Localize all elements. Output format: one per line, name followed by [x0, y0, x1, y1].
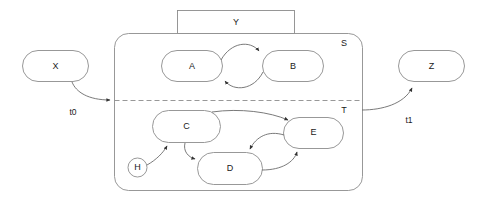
transition-t0[interactable]: t0: [69, 82, 110, 117]
state-machine-diagram: Y S T X Z A B C D E: [0, 0, 482, 204]
node-E[interactable]: E: [284, 118, 344, 149]
node-Z-label: Z: [429, 61, 435, 71]
node-B[interactable]: B: [263, 51, 324, 82]
node-Y-label: Y: [233, 17, 239, 27]
node-X[interactable]: X: [23, 51, 89, 82]
node-H[interactable]: H: [128, 158, 147, 177]
transition-t0-path: [72, 82, 110, 100]
transition-t1[interactable]: t1: [362, 88, 413, 125]
node-B-label: B: [290, 61, 296, 71]
node-D[interactable]: D: [198, 153, 263, 185]
node-E-label: E: [310, 127, 316, 137]
node-C-label: C: [183, 121, 190, 131]
node-H-label: H: [134, 162, 141, 172]
node-X-label: X: [52, 61, 58, 71]
transition-t1-label: t1: [405, 115, 412, 125]
region-T-label: T: [341, 105, 347, 115]
node-Z[interactable]: Z: [399, 51, 465, 82]
node-A[interactable]: A: [162, 51, 223, 82]
node-A-label: A: [189, 61, 195, 71]
transition-t1-path: [362, 88, 412, 110]
container-S-label: S: [341, 38, 347, 48]
node-D-label: D: [227, 163, 234, 173]
node-Y[interactable]: Y: [178, 11, 295, 34]
transition-t0-label: t0: [69, 107, 76, 117]
node-C[interactable]: C: [153, 111, 221, 143]
